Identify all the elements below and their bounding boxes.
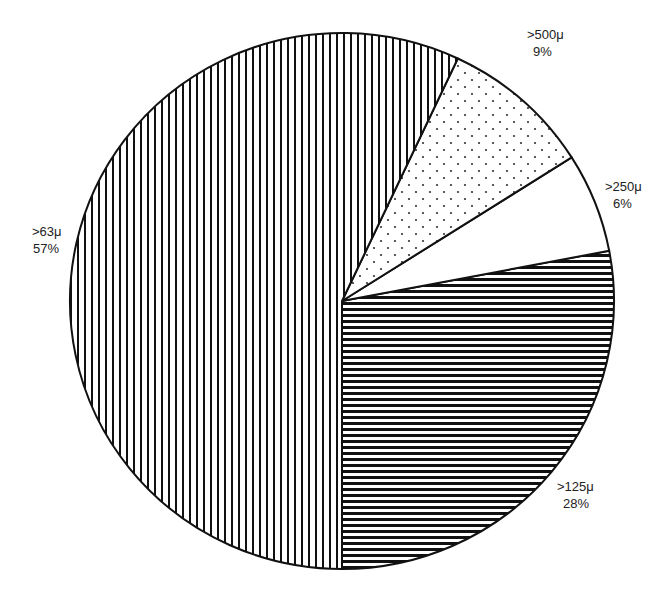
slice-label-500: >500μ 9%	[527, 26, 564, 60]
slice-label-63: >63μ 57%	[32, 223, 62, 257]
slice-label-125: >125μ 28%	[557, 478, 594, 512]
slice-125	[342, 251, 614, 569]
slice-name: >125μ	[557, 478, 594, 495]
pie-slices	[70, 33, 614, 569]
slice-name: >63μ	[32, 223, 62, 240]
slice-label-250: >250μ 6%	[605, 178, 642, 212]
slice-percent: 57%	[32, 240, 62, 257]
slice-name: >250μ	[605, 178, 642, 195]
slice-percent: 6%	[605, 195, 642, 212]
slice-percent: 9%	[527, 43, 564, 60]
slice-name: >500μ	[527, 26, 564, 43]
slice-percent: 28%	[557, 495, 594, 512]
